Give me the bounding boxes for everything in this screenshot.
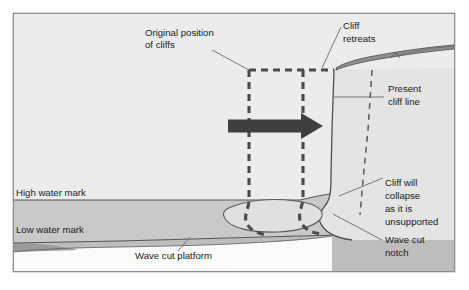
label-cliff-will-collapse-line1: Cliff will <box>385 177 417 188</box>
wave-cut-notch <box>224 200 323 232</box>
label-cliff-will-collapse-line4: unsupported <box>385 216 438 227</box>
label-cliff-retreats-line1: Cliff <box>343 20 360 31</box>
label-cliff-retreats-line2: retreats <box>343 33 376 44</box>
coastal-erosion-diagram: Original position of cliffs Cliff retrea… <box>0 0 469 290</box>
label-cliff-will-collapse-line2: collapse <box>385 190 420 201</box>
label-present-cliff-line-line1: Present <box>388 83 421 94</box>
label-wave-cut-notch-line1: Wave cut <box>385 234 425 245</box>
label-wave-cut-notch-line2: notch <box>385 247 408 258</box>
label-cliff-will-collapse-line3: as it is <box>385 203 412 214</box>
label-original-position-of-cliffs-line2: of cliffs <box>145 39 175 50</box>
label-wave-cut-platform: Wave cut platform <box>135 250 212 261</box>
label-high-water-mark: High water mark <box>16 187 86 198</box>
label-original-position-of-cliffs-line1: Original position <box>145 27 214 38</box>
label-low-water-mark: Low water mark <box>16 224 84 235</box>
present-cliff-body <box>319 68 454 240</box>
label-present-cliff-line-line2: cliff line <box>388 96 420 107</box>
